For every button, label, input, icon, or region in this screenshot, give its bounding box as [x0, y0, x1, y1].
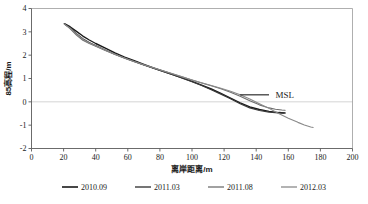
plot-area: [32, 9, 353, 149]
x-tick-label-160: 160: [282, 153, 294, 162]
y-tick-label-4: 4: [23, 4, 27, 13]
x-tick-label-140: 140: [250, 153, 262, 162]
y-tick-label-neg2: -2: [20, 144, 27, 153]
legend-label-2010-09: 2010.09: [81, 183, 107, 192]
x-tick-label-180: 180: [314, 153, 326, 162]
msl-annotation-label: MSL: [275, 90, 294, 100]
x-tick-label-120: 120: [218, 153, 230, 162]
legend-label-2012-03: 2012.03: [300, 183, 326, 192]
x-tick-label-200: 200: [347, 153, 359, 162]
y-axis-title: 85高程/m: [3, 61, 13, 95]
x-tick-label-0: 0: [30, 153, 34, 162]
y-tick-label-2: 2: [23, 51, 27, 60]
x-tick-label-100: 100: [186, 153, 198, 162]
x-axis-title: 离岸距离/m: [171, 164, 212, 174]
x-tick-label-80: 80: [156, 153, 164, 162]
x-tick-label-20: 20: [60, 153, 68, 162]
y-tick-label-neg1: -1: [20, 121, 27, 130]
x-tick-label-60: 60: [124, 153, 132, 162]
y-tick-label-0: 0: [23, 98, 27, 107]
beach-profile-line-chart: 43210-1-2020406080100120140160180200离岸距离…: [0, 0, 368, 204]
legend-label-2011-03: 2011.03: [154, 183, 180, 192]
x-tick-label-40: 40: [92, 153, 100, 162]
chart-container: 43210-1-2020406080100120140160180200离岸距离…: [0, 0, 368, 204]
y-tick-label-1: 1: [23, 74, 27, 83]
y-tick-label-3: 3: [23, 28, 27, 37]
legend-label-2011-08: 2011.08: [227, 183, 253, 192]
